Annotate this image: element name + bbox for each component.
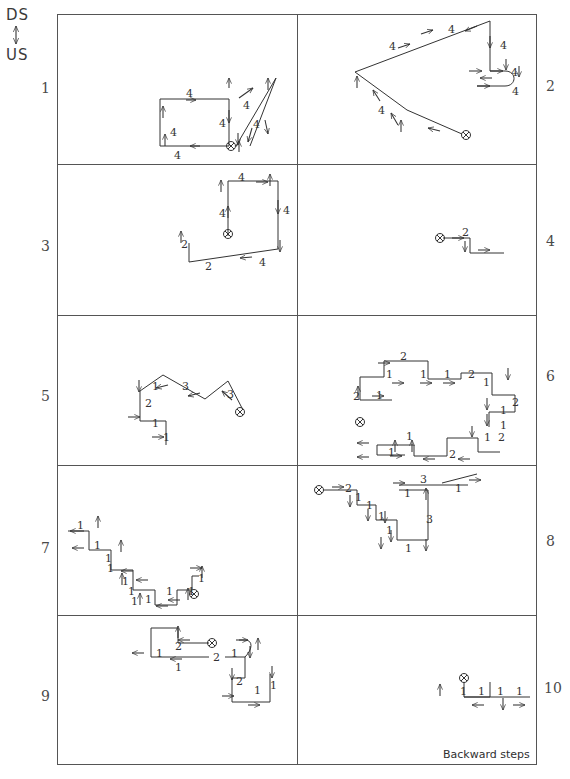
panel-5-path <box>128 375 245 445</box>
grid-frame <box>58 15 537 765</box>
panel-8-path <box>315 474 482 551</box>
crossed-circle-marker <box>315 486 324 495</box>
panel-3-path <box>181 174 280 262</box>
diagram-drawing-layer <box>0 0 570 779</box>
panel-1-path <box>160 78 276 152</box>
panel-6-path <box>356 361 516 459</box>
panel-9-path <box>132 626 272 705</box>
crossed-circle-marker <box>460 674 469 683</box>
panel-7-path <box>68 516 202 606</box>
figure-canvas: DS US 1 3 5 7 9 2 4 6 8 10 Backward step… <box>0 0 570 779</box>
crossed-circle-marker <box>462 131 471 140</box>
crossed-circle-marker <box>356 418 365 427</box>
crossed-circle-marker <box>190 590 199 599</box>
crossed-circle-marker <box>236 408 245 417</box>
panel-10-path <box>440 674 530 711</box>
panel-2-path <box>355 21 519 140</box>
panel-4-path <box>436 234 505 254</box>
